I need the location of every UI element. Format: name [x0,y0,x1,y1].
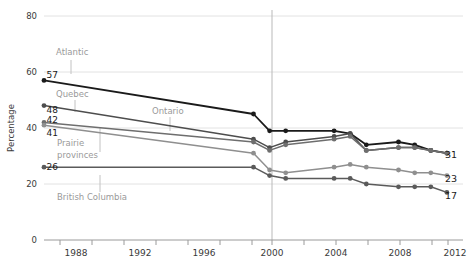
chart-svg: 80 60 40 20 0 1988 1992 1996 2000 2004 2… [0,0,471,267]
start-value-ontario: 42 [47,115,58,125]
data-point [348,176,353,181]
data-point [251,140,256,145]
ytick-label-80: 80 [26,11,37,21]
start-value-bc: 26 [47,162,59,172]
start-value-atlantic: 57 [47,70,58,80]
xtick-label-2012: 2012 [444,248,467,258]
data-point [332,165,337,170]
data-point [412,145,417,150]
data-point [267,168,272,173]
ytick-label-40: 40 [26,123,37,133]
series-label-prairie-line1: Prairie [57,138,84,148]
data-point [364,148,369,153]
series-atlantic [42,78,450,156]
data-point [267,148,272,153]
data-point [251,112,256,117]
xtick-label-2008: 2008 [389,248,412,258]
data-point [396,184,401,189]
ytick-label-60: 60 [26,67,37,77]
data-point [412,184,417,189]
data-point [251,151,256,156]
start-value-prairie: 41 [47,128,58,138]
data-point [428,148,433,153]
data-point [283,142,288,147]
ytick-label-20: 20 [26,179,37,189]
series-layer [42,78,450,195]
series-label-prairie-line2: provinces [57,150,99,160]
xtick-label-1996: 1996 [193,248,216,258]
x-ticks [60,240,448,245]
data-point [412,170,417,175]
data-point [251,165,256,170]
series-label-atlantic: Atlantic [56,47,89,57]
xtick-label-2004: 2004 [325,248,348,258]
xtick-label-1992: 1992 [129,248,152,258]
data-point [396,145,401,150]
end-value-23: 23 [445,173,457,184]
series-prairie-provinces [42,123,450,178]
data-point [348,134,353,139]
series-line [44,80,447,153]
series-label-british-columbia: British Columbia [57,192,127,202]
data-point [267,128,272,133]
data-point [332,137,337,142]
end-value-17: 17 [445,190,457,201]
y-axis-title: Percentage [6,104,16,152]
series-label-quebec: Quebec [56,89,89,99]
xtick-label-2000: 2000 [261,248,284,258]
data-point [396,168,401,173]
data-point [364,165,369,170]
data-point [267,173,272,178]
data-point [428,170,433,175]
end-value-31: 31 [445,149,457,160]
data-point [428,184,433,189]
data-point [332,176,337,181]
data-point [332,128,337,133]
data-point [364,182,369,187]
data-point [283,128,288,133]
data-point [348,162,353,167]
start-value-quebec: 48 [47,105,59,115]
data-point [283,176,288,181]
data-point [396,140,401,145]
gridlines [44,16,463,184]
series-label-ontario: Ontario [152,106,184,116]
series-line [44,167,447,192]
data-point [283,170,288,175]
data-point [364,142,369,147]
ytick-label-0: 0 [32,235,37,245]
xtick-label-1988: 1988 [65,248,88,258]
series-quebec [42,103,450,155]
series-line [44,125,447,175]
line-chart: 80 60 40 20 0 1988 1992 1996 2000 2004 2… [0,0,471,267]
